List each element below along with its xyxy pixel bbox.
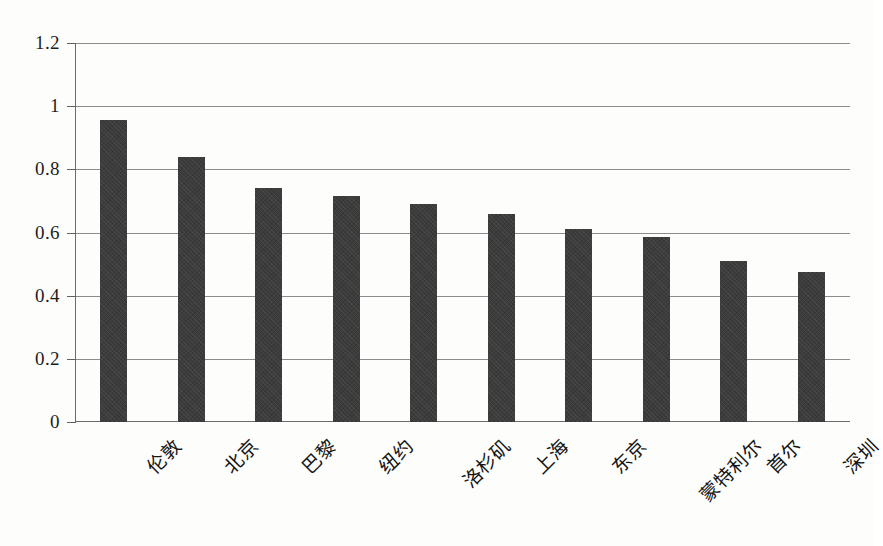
x-axis-category-label: 深圳 [837, 432, 883, 479]
bar [798, 272, 825, 422]
x-axis-category-label: 蒙特利尔 [693, 432, 767, 506]
y-axis-tick-label: 1 [50, 95, 60, 117]
y-axis-tick-label: 0 [50, 411, 60, 433]
bar [255, 188, 282, 422]
x-axis-category-label: 纽约 [372, 432, 419, 479]
bar [565, 229, 592, 422]
y-axis-tick-mark [67, 422, 76, 423]
y-axis-tick-label: 0.2 [35, 348, 60, 370]
x-axis-category-label: 北京 [217, 432, 264, 479]
x-axis-category-label: 东京 [604, 432, 651, 479]
y-axis-tick-label: 1.2 [35, 32, 60, 54]
x-axis-labels: 伦敦北京巴黎纽约洛杉矶上海东京蒙特利尔首尔深圳 [75, 424, 850, 544]
bar [410, 204, 437, 422]
bar [100, 120, 127, 422]
bars-layer [75, 43, 850, 422]
x-axis-category-label: 洛杉矶 [455, 432, 515, 492]
x-axis-category-label: 伦敦 [139, 432, 186, 479]
bar [488, 214, 515, 422]
y-axis-labels: 00.20.40.60.811.2 [0, 43, 60, 422]
y-axis-tick-label: 0.4 [35, 285, 60, 307]
bar [333, 196, 360, 422]
x-axis-category-label: 上海 [527, 432, 574, 479]
bar [643, 237, 670, 422]
x-axis-category-label: 巴黎 [294, 432, 341, 479]
bar [178, 157, 205, 422]
y-axis-tick-label: 0.8 [35, 158, 60, 180]
y-axis-tick-label: 0.6 [35, 222, 60, 244]
x-axis-category-label: 首尔 [759, 432, 806, 479]
bar [720, 261, 747, 422]
